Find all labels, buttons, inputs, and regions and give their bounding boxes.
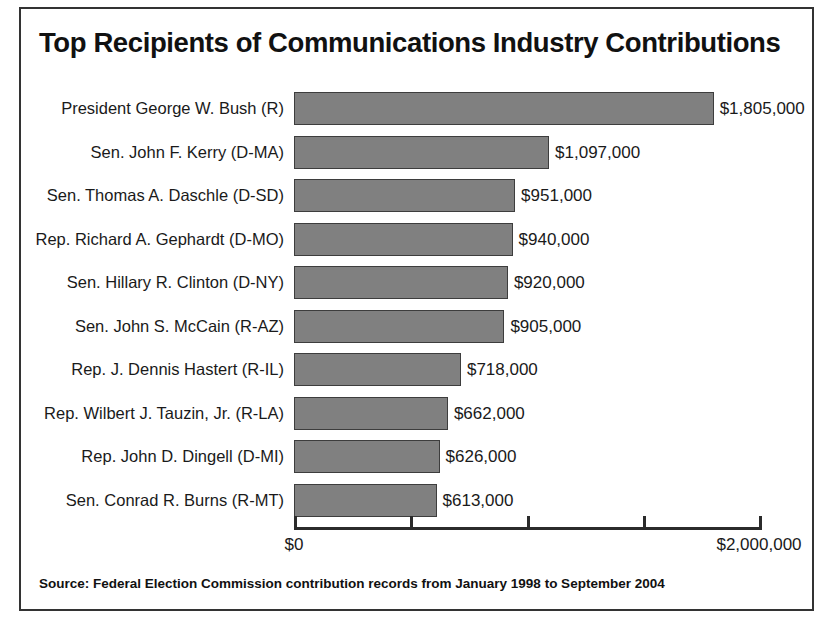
bar-value-label: $905,000 <box>510 310 581 343</box>
bar <box>294 353 461 386</box>
bar-value-label: $662,000 <box>454 397 525 430</box>
chart-frame: Top Recipients of Communications Industr… <box>19 7 814 611</box>
bar-row: President George W. Bush (R)$1,805,000 <box>21 92 759 125</box>
bar-category-label: Sen. John S. McCain (R-AZ) <box>75 310 284 343</box>
bar <box>294 266 508 299</box>
bar <box>294 223 513 256</box>
bar-category-label: Sen. Thomas A. Daschle (D-SD) <box>47 179 284 212</box>
x-axis-tick-label: $0 <box>285 535 304 555</box>
bar-category-label: Rep. Wilbert J. Tauzin, Jr. (R-LA) <box>44 397 284 430</box>
bar-row: Rep. Richard A. Gephardt (D-MO)$940,000 <box>21 223 759 256</box>
bar-category-label: President George W. Bush (R) <box>61 92 284 125</box>
bar-value-label: $626,000 <box>446 440 517 473</box>
bar-value-label: $940,000 <box>519 223 590 256</box>
bar-category-label: Rep. John D. Dingell (D-MI) <box>81 440 284 473</box>
bar-row: Sen. John F. Kerry (D-MA)$1,097,000 <box>21 136 759 169</box>
bar-row: Rep. Wilbert J. Tauzin, Jr. (R-LA)$662,0… <box>21 397 759 430</box>
x-axis-tick-label: $2,000,000 <box>716 535 801 555</box>
bar <box>294 310 504 343</box>
bar <box>294 397 448 430</box>
bar-value-label: $613,000 <box>443 484 514 517</box>
bar-row: Rep. John D. Dingell (D-MI)$626,000 <box>21 440 759 473</box>
x-axis-tick <box>527 516 530 530</box>
x-axis-tick <box>759 516 762 530</box>
bar <box>294 92 714 125</box>
bar-row: Sen. John S. McCain (R-AZ)$905,000 <box>21 310 759 343</box>
x-axis-tick <box>294 516 297 530</box>
bar-category-label: Rep. Richard A. Gephardt (D-MO) <box>36 223 285 256</box>
bar <box>294 136 549 169</box>
bar-row: Sen. Hillary R. Clinton (D-NY)$920,000 <box>21 266 759 299</box>
bar-value-label: $718,000 <box>467 353 538 386</box>
bar-category-label: Rep. J. Dennis Hastert (R-IL) <box>71 353 284 386</box>
x-axis-tick <box>643 516 646 530</box>
source-note: Source: Federal Election Commission cont… <box>39 576 799 591</box>
bar-value-label: $920,000 <box>514 266 585 299</box>
bar-value-label: $1,805,000 <box>720 92 805 125</box>
bar-value-label: $1,097,000 <box>555 136 640 169</box>
bar <box>294 179 515 212</box>
bar-category-label: Sen. Hillary R. Clinton (D-NY) <box>67 266 284 299</box>
bar-category-label: Sen. Conrad R. Burns (R-MT) <box>66 484 284 517</box>
bar-row: Sen. Conrad R. Burns (R-MT)$613,000 <box>21 484 759 517</box>
bar <box>294 484 437 517</box>
bar <box>294 440 440 473</box>
bar-row: Sen. Thomas A. Daschle (D-SD)$951,000 <box>21 179 759 212</box>
bar-row: Rep. J. Dennis Hastert (R-IL)$718,000 <box>21 353 759 386</box>
bar-value-label: $951,000 <box>521 179 592 212</box>
bar-chart-plot-area: President George W. Bush (R)$1,805,000Se… <box>21 9 816 613</box>
bar-category-label: Sen. John F. Kerry (D-MA) <box>91 136 284 169</box>
x-axis-tick <box>410 516 413 530</box>
